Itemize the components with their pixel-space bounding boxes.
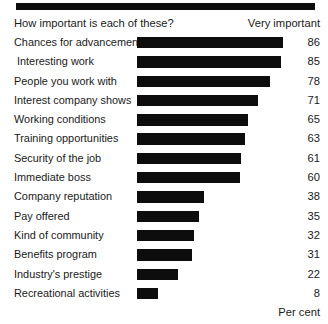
bar-row-value: 31 bbox=[308, 245, 320, 264]
bar-row: Immediate boss60 bbox=[0, 168, 328, 187]
bar-row-value: 86 bbox=[308, 33, 320, 52]
bar-row: Pay offered35 bbox=[0, 207, 328, 226]
bar-row-value: 32 bbox=[308, 226, 320, 245]
legend-very-important: Very important bbox=[248, 14, 320, 32]
bar-row: Benefits program31 bbox=[0, 245, 328, 264]
bar-fill bbox=[137, 211, 199, 222]
bar-row-label: Immediate boss bbox=[14, 168, 91, 187]
bar-row-label: Interesting work bbox=[17, 52, 94, 71]
bar-fill bbox=[137, 230, 194, 241]
bar-fill bbox=[137, 269, 178, 280]
bar-row-value: 38 bbox=[308, 187, 320, 206]
bar-track bbox=[137, 245, 287, 264]
bar-row-value: 61 bbox=[308, 149, 320, 168]
bar-row-label: Company reputation bbox=[14, 187, 112, 206]
bar-track bbox=[137, 110, 287, 129]
bar-fill bbox=[137, 114, 248, 125]
bar-fill bbox=[137, 172, 240, 183]
bar-rows-container: Chances for advancement86Interesting wor… bbox=[0, 33, 328, 303]
bar-row-label: Interest company shows bbox=[14, 91, 131, 110]
bar-row-value: 85 bbox=[308, 52, 320, 71]
bar-row-label: Kind of community bbox=[14, 226, 104, 245]
bar-row-label: Security of the job bbox=[14, 149, 101, 168]
bar-row: Training opportunities63 bbox=[0, 129, 328, 148]
bar-row-label: Training opportunities bbox=[14, 129, 118, 148]
bar-row-label: Pay offered bbox=[14, 207, 70, 226]
bar-row: Security of the job61 bbox=[0, 149, 328, 168]
bar-row: Working conditions65 bbox=[0, 110, 328, 129]
bar-track bbox=[137, 168, 287, 187]
bar-chart: How important is each of these? Very imp… bbox=[0, 0, 328, 324]
bar-row: Interesting work85 bbox=[0, 52, 328, 71]
bar-row-value: 78 bbox=[308, 72, 320, 91]
bar-row-value: 35 bbox=[308, 207, 320, 226]
bar-fill bbox=[137, 133, 245, 144]
bar-row-label: Industry's prestige bbox=[14, 265, 102, 284]
bar-track bbox=[137, 207, 287, 226]
bar-row: Chances for advancement86 bbox=[0, 33, 328, 52]
chart-header: How important is each of these? Very imp… bbox=[0, 14, 328, 32]
bar-track bbox=[137, 52, 287, 71]
bar-fill bbox=[137, 76, 270, 87]
bar-track bbox=[137, 149, 287, 168]
bar-row-value: 60 bbox=[308, 168, 320, 187]
chart-question-title: How important is each of these? bbox=[14, 14, 174, 32]
bar-track bbox=[137, 33, 287, 52]
bar-row: Industry's prestige22 bbox=[0, 265, 328, 284]
bar-row-label: Benefits program bbox=[14, 245, 97, 264]
bar-row-value: 63 bbox=[308, 129, 320, 148]
bar-fill bbox=[137, 288, 158, 299]
bar-row-label: Recreational activities bbox=[14, 284, 120, 303]
bar-track bbox=[137, 226, 287, 245]
bar-track bbox=[137, 187, 287, 206]
bar-fill bbox=[137, 95, 258, 106]
bar-row: Recreational activities8 bbox=[0, 284, 328, 303]
bar-fill bbox=[137, 37, 283, 48]
bar-row-value: 65 bbox=[308, 110, 320, 129]
bar-row-value: 71 bbox=[308, 91, 320, 110]
bar-fill bbox=[137, 191, 204, 202]
bar-row: Interest company shows71 bbox=[0, 91, 328, 110]
bar-row-label: Chances for advancement bbox=[14, 33, 141, 52]
bar-track bbox=[137, 284, 287, 303]
bar-row: People you work with78 bbox=[0, 72, 328, 91]
axis-unit-label: Per cent bbox=[278, 305, 320, 319]
bar-track bbox=[137, 265, 287, 284]
bar-fill bbox=[137, 249, 192, 260]
bar-row: Kind of community32 bbox=[0, 226, 328, 245]
bar-track bbox=[137, 91, 287, 110]
bar-row-label: People you work with bbox=[14, 72, 117, 91]
bar-fill bbox=[137, 153, 241, 164]
bar-row-label: Working conditions bbox=[14, 110, 106, 129]
bar-fill bbox=[137, 56, 281, 67]
bar-track bbox=[137, 72, 287, 91]
bar-track bbox=[137, 129, 287, 148]
top-rule-divider bbox=[16, 3, 315, 10]
bar-row: Company reputation38 bbox=[0, 187, 328, 206]
bar-row-value: 22 bbox=[308, 265, 320, 284]
bar-row-value: 8 bbox=[314, 284, 320, 303]
